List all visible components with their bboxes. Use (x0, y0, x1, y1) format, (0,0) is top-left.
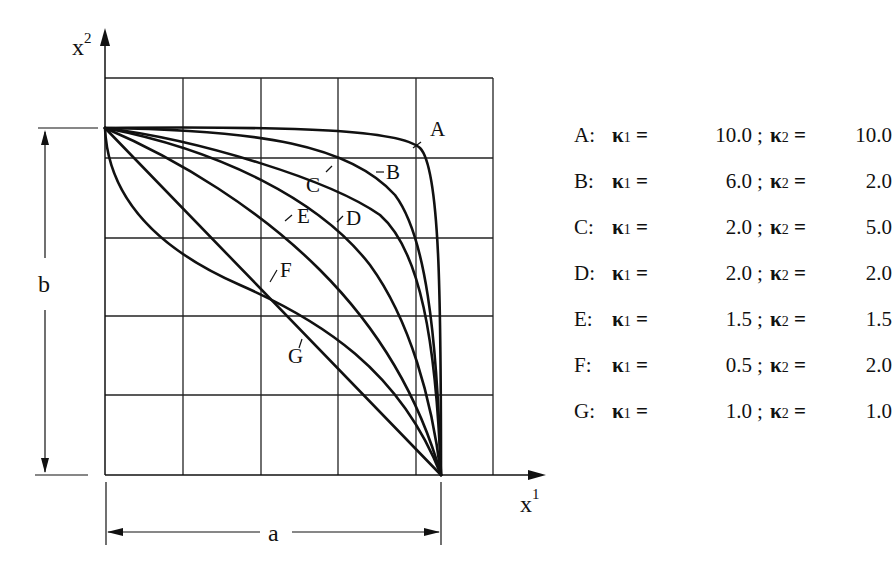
legend-separator: ; (757, 112, 763, 158)
legend-separator: ; (757, 342, 763, 388)
kappa2-value: 5.0 (818, 204, 892, 250)
kappa2-value: 1.5 (818, 296, 892, 342)
kappa1-value: 0.5 (660, 342, 752, 388)
legend-key: F: (574, 342, 592, 388)
kappa2-symbol: κ2 = (770, 342, 806, 391)
kappa1-value: 10.0 (660, 112, 752, 158)
axes (100, 28, 546, 480)
kappa1-symbol: κ1 = (612, 158, 648, 207)
kappa2-symbol: κ2 = (770, 250, 806, 299)
kappa2-value: 2.0 (818, 158, 892, 204)
kappa1-symbol: κ1 = (612, 204, 648, 253)
kappa2-value: 1.0 (818, 388, 892, 434)
kappa2-symbol: κ2 = (770, 388, 806, 437)
kappa1-symbol: κ1 = (612, 296, 648, 345)
kappa1-value: 2.0 (660, 204, 752, 250)
legend-key: C: (574, 204, 594, 250)
kappa1-symbol: κ1 = (612, 342, 648, 391)
curve-label-C: C (306, 173, 320, 197)
kappa2-symbol: κ2 = (770, 296, 806, 345)
y-axis-label: x2 (72, 30, 92, 60)
legend-key: A: (574, 112, 595, 158)
legend-key: B: (574, 158, 594, 204)
curve-label-E: E (297, 204, 310, 228)
curve-label-F: F (280, 258, 292, 282)
kappa1-value: 2.0 (660, 250, 752, 296)
legend-separator: ; (757, 158, 763, 204)
dimension-arrow-down-icon (41, 458, 49, 473)
legend-separator: ; (757, 296, 763, 342)
dimension-arrow-left-icon (107, 528, 123, 536)
kappa1-symbol: κ1 = (612, 388, 648, 437)
curve-label-A: A (430, 117, 446, 141)
kappa1-value: 1.0 (660, 388, 752, 434)
kappa2-value: 2.0 (818, 342, 892, 388)
dimension-arrow-up-icon (41, 130, 49, 145)
kappa1-symbol: κ1 = (612, 112, 648, 161)
x-axis-arrow-icon (528, 470, 546, 480)
y-axis-arrow-icon (100, 28, 110, 46)
legend-separator: ; (757, 204, 763, 250)
legend-key: D: (574, 250, 595, 296)
kappa1-value: 6.0 (660, 158, 752, 204)
kappa2-value: 10.0 (818, 112, 892, 158)
dimension-b-label: b (38, 271, 50, 297)
kappa2-symbol: κ2 = (770, 158, 806, 207)
legend-separator: ; (757, 250, 763, 296)
legend-key: E: (574, 296, 593, 342)
legend-separator: ; (757, 388, 763, 434)
dimension-b (35, 128, 98, 475)
curve-label-D: D (346, 206, 361, 230)
x-axis-label: x1 (520, 486, 540, 517)
legend-key: G: (574, 388, 595, 434)
curve-label-B: B (386, 160, 400, 184)
kappa2-symbol: κ2 = (770, 204, 806, 253)
kappa1-symbol: κ1 = (612, 250, 648, 299)
kappa2-value: 2.0 (818, 250, 892, 296)
curve-label-G: G (288, 344, 303, 368)
dimension-arrow-right-icon (424, 528, 440, 536)
kappa2-symbol: κ2 = (770, 112, 806, 161)
kappa1-value: 1.5 (660, 296, 752, 342)
dimension-a-label: a (268, 520, 279, 546)
